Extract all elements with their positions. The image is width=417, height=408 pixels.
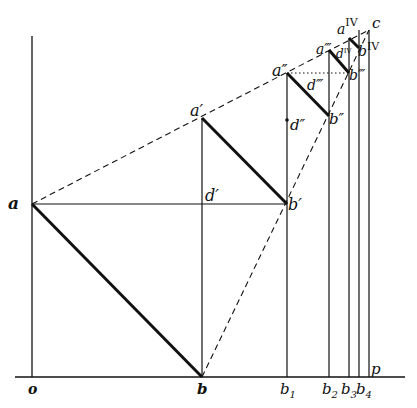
label-a4: aIV <box>337 16 359 37</box>
label-b4: b4 <box>356 380 372 400</box>
point-d2 <box>285 118 289 122</box>
label-b1: b1 <box>280 380 296 400</box>
label-bp3: b‴ <box>349 67 366 83</box>
label-b3: b3 <box>341 380 357 400</box>
label-c: c <box>372 14 381 32</box>
label-bp1: b′ <box>288 195 302 214</box>
label-d1: d′ <box>205 186 219 205</box>
label-a3: a‴ <box>316 41 332 57</box>
label-a1: a′ <box>190 101 204 120</box>
construction-diagram: a o b b1 b2 b3 b4 p a′ d′ b′ a″ d″ b″ d‴… <box>0 0 417 408</box>
label-bp2: b″ <box>329 110 345 128</box>
label-d2: d″ <box>290 116 306 134</box>
label-d4: dIV <box>336 47 352 61</box>
label-d3: d‴ <box>307 77 324 93</box>
label-b: b <box>197 380 208 398</box>
label-b2: b2 <box>322 380 338 400</box>
label-o: o <box>28 381 37 397</box>
segment-a-b <box>32 204 202 377</box>
label-a2: a″ <box>272 61 288 80</box>
label-p: p <box>371 360 381 378</box>
label-a: a <box>8 193 19 213</box>
